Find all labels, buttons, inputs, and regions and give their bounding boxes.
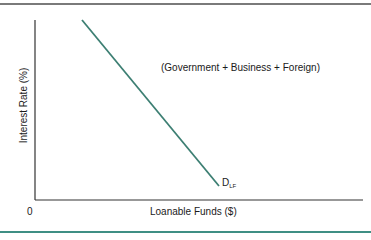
bottom-rule — [0, 231, 371, 233]
curve-label-sub: LF — [229, 183, 236, 189]
curve-annotation: (Government + Business + Foreign) — [161, 62, 320, 73]
chart-plot — [0, 0, 371, 240]
curve-label: DLF — [222, 177, 236, 189]
origin-label: 0 — [27, 206, 33, 217]
demand-curve — [82, 20, 219, 186]
x-axis-label: Loanable Funds ($) — [150, 206, 237, 217]
y-axis-label: Interest Rate (%) — [18, 51, 29, 161]
